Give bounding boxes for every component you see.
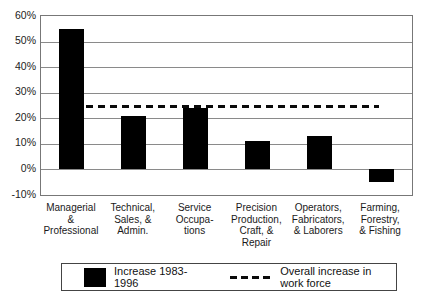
gridline-20 — [41, 118, 412, 119]
y-axis-tick-label: 40% — [0, 61, 36, 72]
y-axis-tick-label: 20% — [0, 112, 36, 123]
y-axis-tick-label: 0% — [0, 163, 36, 174]
gridline-0 — [41, 169, 412, 170]
bar-2 — [121, 116, 146, 170]
gridline-40 — [41, 67, 412, 68]
y-axis-tick-label: 10% — [0, 137, 36, 148]
legend-bar-label: Increase 1983-1996 — [114, 265, 192, 289]
bar-4 — [245, 141, 270, 169]
employment-change-bar-chart: 60%50%40%30%20%10%0%-10% Managerial & Pr… — [0, 0, 422, 299]
bar-5 — [307, 136, 332, 169]
y-axis-tick-label: 50% — [0, 35, 36, 46]
y-axis-tick-label: 60% — [0, 10, 36, 21]
legend-dashed-line-swatch — [230, 276, 272, 279]
bar-6 — [369, 169, 394, 182]
gridline-50 — [41, 42, 412, 43]
bar-3 — [183, 108, 208, 169]
y-axis-tick-label: -10% — [0, 189, 36, 200]
legend-bar-swatch — [84, 268, 106, 287]
plot-area — [40, 15, 413, 196]
x-axis-category-label: Farming, Forestry, & Fishing — [338, 202, 422, 237]
gridline-10 — [41, 144, 412, 145]
bar-1 — [59, 29, 84, 170]
overall-increase-dashed-line — [86, 105, 379, 108]
gridline-30 — [41, 93, 412, 94]
legend-dash-label: Overall increase in work force — [280, 265, 396, 289]
y-axis-tick-label: 30% — [0, 86, 36, 97]
legend: Increase 1983-1996 Overall increase in w… — [61, 263, 397, 291]
